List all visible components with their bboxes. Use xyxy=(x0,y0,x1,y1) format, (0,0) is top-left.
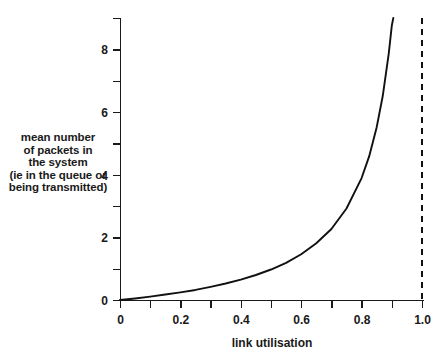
y-axis-title-line-1: mean number xyxy=(6,131,110,144)
x-tick-marks xyxy=(121,301,423,309)
x-tick-label-1.0: 1.0 xyxy=(414,313,431,327)
y-tick-label-6: 6 xyxy=(101,106,108,120)
x-tick-label-0.6: 0.6 xyxy=(293,313,310,327)
y-axis-title-line-3: the system xyxy=(6,156,110,169)
x-tick-label-0.4: 0.4 xyxy=(233,313,250,327)
x-tick-labels: 0 0.2 0.4 0.6 0.8 1.0 xyxy=(117,313,431,327)
y-tick-label-0: 0 xyxy=(101,294,108,308)
x-tick-label-0: 0 xyxy=(117,313,124,327)
queue-length-curve xyxy=(120,18,393,300)
x-tick-label-0.2: 0.2 xyxy=(173,313,190,327)
x-axis-title: link utilisation xyxy=(232,336,313,350)
y-tick-label-8: 8 xyxy=(101,43,108,57)
y-axis-title-line-5: being transmitted) xyxy=(6,181,110,194)
axes-group xyxy=(121,18,425,301)
y-axis-title: mean number of packets in the system (ie… xyxy=(6,131,110,194)
x-tick-label-0.8: 0.8 xyxy=(354,313,371,327)
y-axis-title-line-4: (ie in the queue or xyxy=(6,169,110,182)
y-tick-marks xyxy=(113,19,121,301)
chart-page: 0 0.2 0.4 0.6 0.8 1.0 0 2 4 6 8 link uti… xyxy=(0,0,435,354)
y-tick-label-2: 2 xyxy=(101,231,108,245)
y-axis-title-line-2: of packets in xyxy=(6,144,110,157)
